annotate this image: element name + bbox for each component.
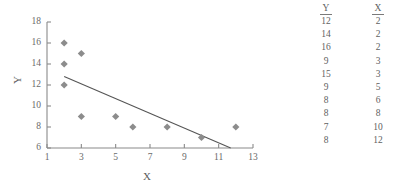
y-axis-tick-label: 14 bbox=[17, 58, 41, 68]
scatter-point bbox=[78, 50, 85, 57]
scatter-point bbox=[129, 123, 136, 130]
scatter-point bbox=[61, 81, 68, 88]
x-axis-tick-label: 3 bbox=[69, 152, 93, 162]
scatter-point bbox=[112, 113, 119, 120]
scatter-point bbox=[232, 123, 239, 130]
table-row: 710 bbox=[300, 121, 404, 134]
table-cell-y: 8 bbox=[300, 94, 352, 107]
scatter-point bbox=[61, 39, 68, 46]
table-header-y: Y bbox=[300, 2, 352, 15]
table-row: 812 bbox=[300, 134, 404, 147]
table-cell-y: 16 bbox=[300, 41, 352, 54]
x-axis-tick-label: 13 bbox=[241, 152, 265, 162]
table-cell-x: 12 bbox=[352, 134, 404, 147]
y-axis-tick-label: 6 bbox=[17, 142, 41, 152]
table-cell-x: 6 bbox=[352, 94, 404, 107]
table-cell-y: 8 bbox=[300, 134, 352, 147]
scatter-point bbox=[61, 60, 68, 67]
table-row: 122 bbox=[300, 15, 404, 28]
x-axis-tick-label: 7 bbox=[138, 152, 162, 162]
y-axis-tick-label: 12 bbox=[17, 79, 41, 89]
table-cell-x: 3 bbox=[352, 68, 404, 81]
table-cell-x: 8 bbox=[352, 107, 404, 120]
table-cell-x: 2 bbox=[352, 41, 404, 54]
trend-line bbox=[64, 77, 231, 148]
y-axis-tick-label: 16 bbox=[17, 37, 41, 47]
table-row: 88 bbox=[300, 107, 404, 120]
x-axis-tick-label: 11 bbox=[207, 152, 231, 162]
table-header-row: Y X bbox=[300, 2, 404, 15]
x-axis-tick-label: 9 bbox=[172, 152, 196, 162]
table-body: 12214216293153958688710812 bbox=[300, 15, 404, 147]
chart-canvas bbox=[0, 0, 270, 193]
scatter-plot-figure: Y X 681012141618135791113 Y X 1221421629… bbox=[0, 0, 406, 193]
table-cell-x: 2 bbox=[352, 28, 404, 41]
table-cell-y: 7 bbox=[300, 121, 352, 134]
table-cell-x: 10 bbox=[352, 121, 404, 134]
data-table: Y X 12214216293153958688710812 bbox=[300, 2, 404, 147]
y-axis-tick-label: 18 bbox=[17, 16, 41, 26]
table-cell-y: 14 bbox=[300, 28, 352, 41]
chart-plot-area: Y X 681012141618135791113 bbox=[0, 0, 270, 193]
table-row: 153 bbox=[300, 68, 404, 81]
x-axis-tick-label: 1 bbox=[35, 152, 59, 162]
table-cell-x: 2 bbox=[352, 15, 404, 28]
table-cell-y: 9 bbox=[300, 81, 352, 94]
table-cell-y: 9 bbox=[300, 55, 352, 68]
table-cell-x: 3 bbox=[352, 55, 404, 68]
table-row: 86 bbox=[300, 94, 404, 107]
table-row: 142 bbox=[300, 28, 404, 41]
scatter-point bbox=[164, 123, 171, 130]
y-axis-tick-label: 8 bbox=[17, 121, 41, 131]
table-header-x: X bbox=[352, 2, 404, 15]
y-axis-tick-label: 10 bbox=[17, 100, 41, 110]
table-cell-y: 8 bbox=[300, 107, 352, 120]
table-row: 95 bbox=[300, 81, 404, 94]
scatter-point bbox=[78, 113, 85, 120]
table-row: 93 bbox=[300, 55, 404, 68]
table-cell-y: 15 bbox=[300, 68, 352, 81]
table-cell-y: 12 bbox=[300, 15, 352, 28]
x-axis-title: X bbox=[140, 170, 154, 182]
table-row: 162 bbox=[300, 41, 404, 54]
table-cell-x: 5 bbox=[352, 81, 404, 94]
x-axis-tick-label: 5 bbox=[104, 152, 128, 162]
